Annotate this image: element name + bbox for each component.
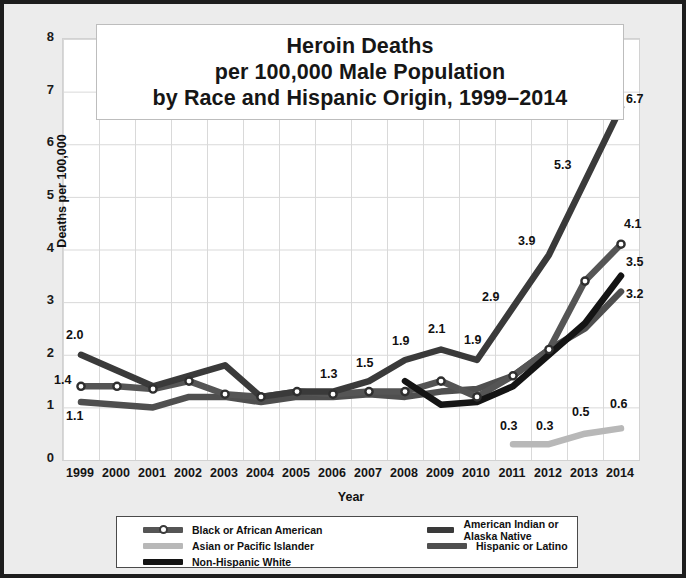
legend-swatch-icon (143, 527, 183, 533)
legend-marker-circle-icon (159, 525, 168, 534)
data-label-2014: 4.1 (624, 217, 641, 231)
data-label-2013: 0.5 (572, 405, 589, 419)
y-tick-5: 5 (14, 187, 54, 202)
y-tick-3: 3 (14, 292, 54, 307)
data-label-2012: 3.9 (518, 234, 535, 248)
legend-swatch-icon (427, 527, 454, 533)
y-tick-8: 8 (14, 29, 54, 44)
data-label-2007: 1.5 (356, 356, 373, 370)
data-label-1999: 1.1 (66, 409, 83, 423)
data-label-2010: 1.9 (464, 333, 481, 347)
y-tick-7: 7 (14, 82, 54, 97)
data-label-2014: 3.5 (626, 255, 643, 269)
x-tick-2014: 2014 (592, 466, 648, 480)
legend-item[interactable]: American Indian or Alaska Native (427, 523, 577, 537)
data-label-2014: 6.7 (626, 92, 643, 106)
chart-title-line-2: per 100,000 Male Population (215, 59, 506, 85)
legend-label: Asian or Pacific Islander (192, 540, 314, 552)
legend-swatch-icon (143, 559, 183, 565)
data-label-2013: 5.3 (554, 158, 571, 172)
legend-label: Hispanic or Latino (476, 540, 568, 552)
y-tick-0: 0 (14, 450, 54, 465)
data-label-2011: 0.3 (500, 419, 517, 433)
data-label-2006: 1.3 (320, 367, 337, 381)
x-axis-title: Year (62, 490, 640, 504)
chart-screenshot: 012345678 199920002001200220032004200520… (0, 0, 686, 578)
chart-legend: Black or African AmericanAsian or Pacifi… (116, 516, 578, 568)
data-label-2014: 3.2 (626, 287, 643, 301)
data-label-2014: 0.6 (610, 397, 627, 411)
legend-swatch-icon (143, 543, 183, 549)
y-tick-2: 2 (14, 345, 54, 360)
legend-label: Black or African American (192, 524, 323, 536)
data-label-2012: 0.3 (536, 419, 553, 433)
legend-item[interactable]: Asian or Pacific Islander (143, 539, 314, 553)
data-label-1999: 2.0 (66, 328, 83, 342)
y-tick-6: 6 (14, 134, 54, 149)
legend-swatch-icon (427, 543, 467, 549)
chart-title-line-1: Heroin Deaths (286, 33, 433, 59)
legend-item[interactable]: Hispanic or Latino (427, 539, 568, 553)
y-tick-1: 1 (14, 397, 54, 412)
data-label-2011: 2.9 (482, 290, 499, 304)
chart-title: Heroin Deaths per 100,000 Male Populatio… (96, 24, 624, 120)
chart-title-line-3: by Race and Hispanic Origin, 1999–2014 (153, 85, 568, 111)
y-axis-title: Deaths per 100,000 (55, 111, 69, 271)
data-label-1999: 1.4 (54, 373, 71, 387)
legend-item[interactable]: Non-Hispanic White (143, 555, 291, 569)
data-label-2009: 2.1 (428, 322, 445, 336)
chart-canvas: 012345678 199920002001200220032004200520… (4, 4, 682, 574)
data-label-2008: 1.9 (392, 334, 409, 348)
y-tick-4: 4 (14, 240, 54, 255)
legend-item[interactable]: Black or African American (143, 523, 323, 537)
legend-label: Non-Hispanic White (192, 556, 291, 568)
